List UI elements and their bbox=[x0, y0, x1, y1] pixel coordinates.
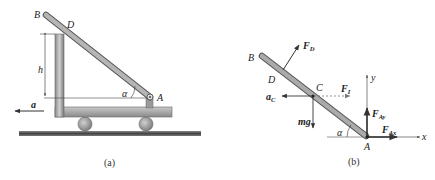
caption-b: (b) bbox=[348, 156, 360, 168]
point-A bbox=[365, 135, 368, 138]
ground bbox=[19, 131, 201, 136]
label-D-b: D bbox=[267, 74, 276, 85]
label-B: B bbox=[34, 9, 40, 20]
point-C bbox=[312, 95, 315, 98]
label-B-b: B bbox=[248, 52, 254, 63]
label-a: a bbox=[31, 99, 36, 110]
caption-a: (a) bbox=[104, 157, 115, 169]
panel-a: B D h α A a (a) bbox=[15, 9, 201, 169]
label-mg: mg bbox=[298, 116, 311, 127]
label-aC: aC bbox=[266, 91, 276, 103]
label-FI: FI bbox=[340, 83, 351, 95]
label-FD: FD bbox=[302, 40, 315, 52]
label-C: C bbox=[316, 82, 323, 93]
label-y: y bbox=[370, 72, 376, 83]
label-A-b: A bbox=[363, 141, 371, 152]
label-A: A bbox=[156, 92, 164, 103]
force-FD-arrow bbox=[283, 45, 299, 70]
label-alpha: α bbox=[122, 88, 128, 99]
diagram-canvas: B D h α A a (a) bbox=[0, 0, 435, 180]
label-alpha-b: α bbox=[337, 127, 343, 138]
label-h: h bbox=[38, 64, 43, 75]
panel-b: B D C A α x y FD FI aC mg FAy FAx (b) bbox=[248, 40, 427, 168]
label-x: x bbox=[421, 131, 427, 142]
label-FAy: FAy bbox=[371, 108, 386, 120]
label-D: D bbox=[66, 19, 75, 30]
label-FAx: FAx bbox=[381, 124, 397, 136]
cart-base bbox=[55, 107, 172, 117]
wheel-left bbox=[78, 117, 92, 131]
wheel-right bbox=[139, 117, 153, 131]
cart-post bbox=[55, 34, 64, 117]
